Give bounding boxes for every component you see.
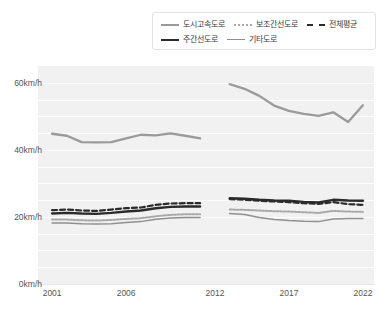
x-axis-tick-label: 2001	[43, 288, 62, 298]
line-swatch-solid-black-icon	[161, 35, 179, 44]
x-axis-line	[38, 284, 374, 285]
x-axis-tick-label: 2022	[353, 288, 372, 298]
line-swatch-dashed-icon	[307, 20, 325, 29]
x-axis-tick-label: 2006	[117, 288, 136, 298]
legend-label: 전체평균	[329, 20, 357, 29]
legend-row-2: 주간선도로 기타도로	[161, 32, 369, 47]
legend-item-overall-average[interactable]: 전체평균	[307, 20, 357, 29]
chart-legend: 도시고속도로 보조간선도로 전체평균 주간선도로 기타도로	[152, 12, 376, 50]
legend-label: 도시고속도로	[183, 20, 225, 29]
legend-item-main-arterial[interactable]: 주간선도로	[161, 35, 218, 44]
legend-label: 주간선도로	[183, 35, 218, 44]
x-axis-tick-label: 2017	[279, 288, 298, 298]
road-speed-line-chart: 도시고속도로 보조간선도로 전체평균 주간선도로 기타도로 0km/h20km/…	[0, 0, 381, 322]
series-line-기타도로	[230, 214, 363, 222]
x-axis-tick-label: 2012	[205, 288, 224, 298]
line-swatch-dotted-icon	[234, 20, 252, 29]
series-line-도시고속도로	[52, 133, 200, 142]
legend-item-sub-arterial[interactable]: 보조간선도로	[234, 20, 298, 29]
legend-item-other-road[interactable]: 기타도로	[227, 35, 277, 44]
line-swatch-solid-gray-icon	[161, 20, 179, 29]
series-line-도시고속도로	[230, 84, 363, 122]
line-swatch-solid-gray2-icon	[227, 35, 245, 44]
series-lines	[38, 66, 374, 284]
legend-row-1: 도시고속도로 보조간선도로 전체평균	[161, 17, 369, 32]
legend-label: 기타도로	[249, 35, 277, 44]
legend-label: 보조간선도로	[256, 20, 298, 29]
series-line-보조간선도로	[230, 210, 363, 213]
legend-item-urban-expressway[interactable]: 도시고속도로	[161, 20, 225, 29]
